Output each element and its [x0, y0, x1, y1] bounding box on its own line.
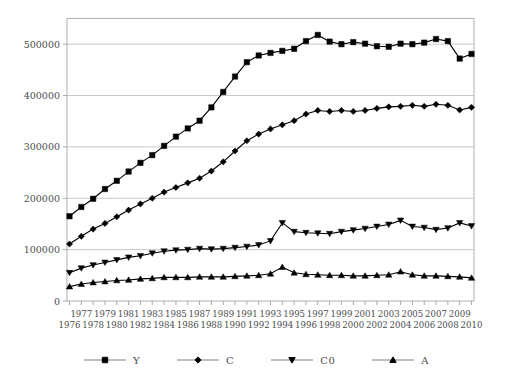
series-marker-C	[267, 126, 273, 132]
series-line-C0	[70, 220, 472, 272]
legend-item-C: C	[177, 355, 234, 366]
series-marker-C	[409, 102, 415, 108]
series-marker-Y	[445, 38, 450, 43]
x-axis-tick-label: 1996	[295, 320, 317, 330]
series-marker-Y	[374, 44, 379, 49]
x-axis-tick-label: 1980	[106, 320, 128, 330]
x-axis-tick-label: 2000	[342, 320, 364, 330]
x-axis-tick-label: 1988	[200, 320, 222, 330]
series-marker-Y	[339, 41, 344, 46]
series-marker-Y	[268, 50, 273, 55]
series-marker-Y	[232, 74, 237, 79]
series-marker-C	[327, 108, 333, 114]
series-marker-Y	[457, 56, 462, 61]
x-axis-tick-label: 2009	[449, 309, 471, 319]
series-marker-C	[338, 107, 344, 113]
series-marker-Y	[291, 46, 296, 51]
y-axis-tick-label: 100000	[24, 244, 60, 255]
series-marker-Y	[244, 59, 249, 64]
x-axis-tick-label: 1993	[260, 309, 282, 319]
series-marker-C	[126, 207, 132, 213]
series-marker-C	[137, 201, 143, 207]
y-axis-tick-label: 400000	[24, 90, 60, 101]
series-marker-C	[114, 214, 120, 220]
series-marker-C	[102, 220, 108, 226]
series-marker-Y	[102, 186, 107, 191]
legend-item-C0: C0	[271, 355, 335, 366]
series-marker-A	[267, 271, 273, 277]
x-axis-tick-label: 1991	[236, 309, 258, 319]
x-axis-tick-label: 1997	[307, 309, 329, 319]
series-marker-Y	[173, 134, 178, 139]
x-axis-tick-label: 1982	[130, 320, 152, 330]
series-marker-C	[196, 175, 202, 181]
x-axis-tick-label: 1981	[118, 309, 140, 319]
series-marker-C	[445, 102, 451, 108]
x-axis-tick-label: 2007	[425, 309, 447, 319]
x-axis-tick-label: 1999	[331, 309, 353, 319]
series-marker-C	[397, 103, 403, 109]
x-axis-tick-label: 1998	[319, 320, 341, 330]
series-marker-C	[185, 180, 191, 186]
x-axis-tick-label: 1990	[224, 320, 246, 330]
series-marker-Y	[197, 118, 202, 123]
x-axis-tick-label: 1995	[283, 309, 305, 319]
series-marker-Y	[327, 39, 332, 44]
series-marker-C	[362, 107, 368, 113]
x-axis-tick-label: 2001	[354, 309, 376, 319]
y-axis-tick-label: 200000	[24, 193, 60, 204]
series-marker-Y	[280, 48, 285, 53]
series-marker-C	[279, 122, 285, 128]
series-marker-C	[303, 111, 309, 117]
x-axis-tick-label: 2005	[401, 309, 423, 319]
x-axis-tick-label: 1976	[59, 320, 81, 330]
legend-label-Y: Y	[133, 355, 140, 366]
series-marker-Y	[126, 169, 131, 174]
series-marker-Y	[351, 39, 356, 44]
x-axis-tick-label: 2003	[378, 309, 400, 319]
series-marker-Y	[79, 204, 84, 209]
series-marker-Y	[221, 89, 226, 94]
series-marker-Y	[398, 41, 403, 46]
series-marker-C	[457, 107, 463, 113]
x-axis-tick-label: 2010	[461, 320, 483, 330]
series-marker-C	[173, 184, 179, 190]
series-marker-Y	[422, 40, 427, 45]
legend-marker-diamond-icon	[177, 355, 219, 365]
legend-label-C0: C0	[320, 355, 335, 366]
series-marker-C	[374, 105, 380, 111]
line-chart: 0100000200000300000400000500000197619771…	[0, 0, 513, 389]
series-marker-A	[397, 269, 403, 275]
series-marker-C	[315, 107, 321, 113]
series-marker-C	[421, 103, 427, 109]
x-axis-tick-label: 2006	[413, 320, 435, 330]
x-axis-tick-label: 2002	[366, 320, 388, 330]
series-marker-Y	[386, 44, 391, 49]
x-axis-tick-label: 1989	[212, 309, 234, 319]
legend-label-C: C	[226, 355, 234, 366]
legend-marker-triangle-down-icon	[271, 355, 313, 365]
legend-marker-square-icon	[84, 355, 126, 365]
series-marker-A	[279, 264, 285, 270]
x-axis-tick-label: 1983	[141, 309, 163, 319]
series-marker-C	[433, 101, 439, 107]
x-axis-tick-label: 1985	[165, 309, 187, 319]
legend-label-A: A	[421, 355, 429, 366]
series-marker-C	[291, 118, 297, 124]
x-axis-tick-label: 1984	[153, 320, 175, 330]
chart-legend: YCC0A	[0, 348, 513, 372]
y-axis-tick-label: 0	[54, 296, 60, 307]
y-axis-tick-label: 300000	[24, 141, 60, 152]
series-marker-C	[386, 104, 392, 110]
chart-canvas: 0100000200000300000400000500000197619771…	[0, 0, 513, 389]
x-axis-tick-label: 1986	[177, 320, 199, 330]
x-axis-tick-label: 1977	[70, 309, 92, 319]
x-axis-tick-label: 1978	[82, 320, 104, 330]
series-marker-Y	[161, 143, 166, 148]
series-marker-C	[90, 226, 96, 232]
series-marker-Y	[90, 196, 95, 201]
series-marker-C	[350, 108, 356, 114]
x-axis-tick-label: 1994	[271, 320, 293, 330]
x-axis-tick-label: 1992	[248, 320, 270, 330]
series-marker-Y	[303, 38, 308, 43]
